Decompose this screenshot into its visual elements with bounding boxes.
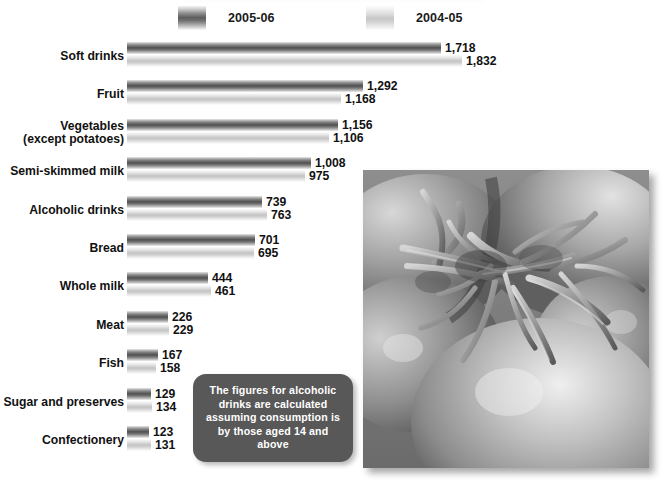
category-label: Bread bbox=[0, 242, 124, 255]
bar-pair: 701695 bbox=[127, 234, 255, 259]
category-label: Meat bbox=[0, 319, 124, 332]
bar-dark: 701 bbox=[127, 234, 255, 246]
bar-value-label: 1,168 bbox=[345, 92, 376, 106]
category-label-line: Sugar and preserves bbox=[0, 396, 124, 409]
category-label-line: Whole milk bbox=[0, 280, 124, 293]
bar-pair: 167158 bbox=[127, 349, 158, 374]
category-label-line: (except potatoes) bbox=[0, 133, 124, 146]
category-label: Vegetables(except potatoes) bbox=[0, 120, 124, 146]
bar-dark: 129 bbox=[127, 388, 151, 400]
bar-value-label: 167 bbox=[162, 348, 182, 362]
bar-pair: 739763 bbox=[127, 196, 267, 221]
legend-swatch-dark-icon bbox=[178, 6, 206, 30]
category-label: Sugar and preserves bbox=[0, 396, 124, 409]
bar-pair: 444461 bbox=[127, 272, 211, 297]
bar-dark: 444 bbox=[127, 272, 208, 284]
bar-value-label: 763 bbox=[271, 208, 291, 222]
bar-value-label: 461 bbox=[215, 284, 235, 298]
bar-value-label: 1,106 bbox=[333, 131, 364, 145]
bar-value-label: 226 bbox=[172, 310, 192, 324]
bar-pair: 226229 bbox=[127, 311, 169, 336]
category-label-line: Confectionery bbox=[0, 434, 124, 447]
bar-value-label: 131 bbox=[155, 438, 175, 452]
bar-value-label: 129 bbox=[155, 387, 175, 401]
bar-dark: 123 bbox=[127, 426, 149, 438]
bar-light: 134 bbox=[127, 401, 152, 413]
bar-dark: 1,008 bbox=[127, 157, 311, 169]
bar-light: 763 bbox=[127, 209, 267, 221]
legend-item-2004-05: 2004-05 bbox=[366, 6, 463, 30]
bar-light: 695 bbox=[127, 247, 254, 259]
bar-value-label: 1,832 bbox=[466, 54, 497, 68]
category-label: Fish bbox=[0, 357, 124, 370]
bar-pair: 1,7181,832 bbox=[127, 42, 462, 67]
category-label: Alcoholic drinks bbox=[0, 204, 124, 217]
bar-value-label: 158 bbox=[160, 361, 180, 375]
bar-light: 461 bbox=[127, 285, 211, 297]
legend-item-2005-06: 2005-06 bbox=[178, 6, 275, 30]
bar-dark: 1,292 bbox=[127, 80, 363, 92]
category-label-line: Soft drinks bbox=[0, 50, 124, 63]
bar-value-label: 1,156 bbox=[342, 118, 373, 132]
category-label-line: Alcoholic drinks bbox=[0, 204, 124, 217]
bar-value-label: 1,008 bbox=[315, 156, 346, 170]
bar-light: 1,106 bbox=[127, 132, 329, 144]
category-label: Semi-skimmed milk bbox=[0, 165, 124, 178]
bar-pair: 1,2921,168 bbox=[127, 80, 363, 105]
bar-value-label: 444 bbox=[212, 271, 232, 285]
bar-light: 975 bbox=[127, 170, 305, 182]
category-label: Whole milk bbox=[0, 280, 124, 293]
bar-value-label: 123 bbox=[153, 425, 173, 439]
tomato-photo-image bbox=[363, 170, 649, 468]
category-label: Soft drinks bbox=[0, 50, 124, 63]
legend-label-2004-05: 2004-05 bbox=[416, 11, 463, 25]
chart-legend: 2005-06 2004-05 bbox=[0, 6, 666, 36]
bar-value-label: 1,718 bbox=[445, 41, 476, 55]
bar-value-label: 134 bbox=[156, 400, 176, 414]
bar-light: 1,168 bbox=[127, 93, 341, 105]
bar-dark: 1,156 bbox=[127, 119, 338, 131]
bar-light: 1,832 bbox=[127, 55, 462, 67]
legend-label-2005-06: 2005-06 bbox=[228, 11, 275, 25]
bar-light: 229 bbox=[127, 324, 169, 336]
bar-pair: 123131 bbox=[127, 426, 151, 451]
bar-value-label: 1,292 bbox=[367, 79, 398, 93]
bar-value-label: 701 bbox=[259, 233, 279, 247]
category-label-line: Fruit bbox=[0, 88, 124, 101]
category-label: Fruit bbox=[0, 88, 124, 101]
bar-dark: 226 bbox=[127, 311, 168, 323]
bar-dark: 167 bbox=[127, 349, 158, 361]
callout-box: The figures for alcoholic drinks are cal… bbox=[193, 374, 353, 462]
bar-pair: 1,1561,106 bbox=[127, 119, 338, 144]
bar-pair: 1,008975 bbox=[127, 157, 311, 182]
bar-light: 158 bbox=[127, 362, 156, 374]
bar-value-label: 975 bbox=[309, 169, 329, 183]
category-label-line: Bread bbox=[0, 242, 124, 255]
bar-pair: 129134 bbox=[127, 388, 152, 413]
chart-page: 2005-06 2004-05 Soft drinks1,7181,832Fru… bbox=[0, 0, 666, 484]
bar-group: Fruit1,2921,168 bbox=[0, 80, 666, 114]
bar-dark: 1,718 bbox=[127, 42, 441, 54]
legend-swatch-light-icon bbox=[366, 6, 394, 30]
category-label-line: Vegetables bbox=[0, 120, 124, 133]
tomato-photo bbox=[363, 170, 649, 468]
bar-group: Vegetables(except potatoes)1,1561,106 bbox=[0, 119, 666, 153]
title-strip bbox=[185, 0, 485, 4]
bar-light: 131 bbox=[127, 439, 151, 451]
category-label: Confectionery bbox=[0, 434, 124, 447]
bar-dark: 739 bbox=[127, 196, 262, 208]
callout-text: The figures for alcoholic drinks are cal… bbox=[193, 384, 353, 452]
bar-value-label: 695 bbox=[258, 246, 278, 260]
bar-value-label: 229 bbox=[173, 323, 193, 337]
category-label-line: Meat bbox=[0, 319, 124, 332]
bar-value-label: 739 bbox=[266, 195, 286, 209]
category-label-line: Semi-skimmed milk bbox=[0, 165, 124, 178]
category-label-line: Fish bbox=[0, 357, 124, 370]
bar-group: Soft drinks1,7181,832 bbox=[0, 42, 666, 76]
